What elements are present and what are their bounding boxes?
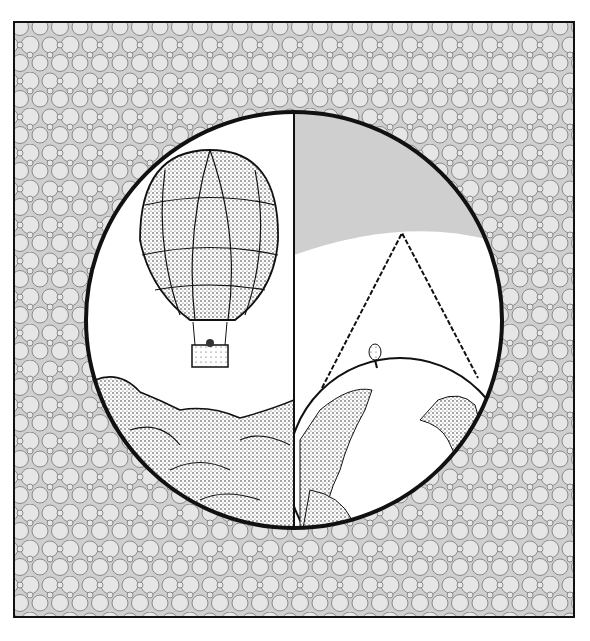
basket bbox=[192, 345, 228, 367]
pilot bbox=[206, 339, 214, 347]
small-balloon bbox=[369, 344, 381, 360]
illustration bbox=[0, 0, 590, 641]
